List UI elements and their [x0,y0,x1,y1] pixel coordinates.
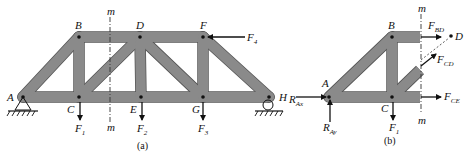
joint-label-h: H [278,91,288,103]
joint-label-f: F [199,19,207,31]
joint-label-d: D [135,19,144,31]
joint-label-e: E [129,103,137,115]
load-label-f3: F3 [197,122,209,137]
truss-figure: m m A B C D E F G H F1 F2 F3 F4 (a) [0,0,464,158]
joint-label-g: G [192,103,200,115]
load-label-f2: F2 [136,122,148,137]
force-label-fce: FCE [443,90,460,105]
force-label-fcd: FCD [436,53,453,68]
point-d-marker [449,34,453,38]
joint-label-c: C [67,103,75,115]
joint-label-d-b: D [454,30,463,42]
reaction-label-rax: RAx [288,93,304,108]
cut-label-bottom-b: m [418,114,426,126]
line-of-action-cd [421,38,449,60]
load-label-f4: F4 [246,31,258,46]
cut-label-bottom: m [107,121,115,133]
joint-label-b-b: B [388,19,395,31]
force-arrow-fcd [421,54,436,66]
caption-b: (b) [384,135,396,147]
caption-a: (a) [137,140,148,152]
truss-a-members [23,37,269,97]
joint-label-a: A [6,91,14,103]
force-label-fbd: FBD [427,19,444,34]
free-body-b: m m A B C D RAx RAy F1 FBD FCD FCE (b) [288,2,463,147]
truss-b-members [329,37,420,97]
joint-label-b: B [75,19,82,31]
cut-label-top-b: m [418,2,426,14]
truss-a: m m A B C D E F G H F1 F2 F3 F4 (a) [6,5,288,152]
reaction-label-ray: RAy [322,121,338,136]
joint-label-c-b: C [381,102,389,114]
cut-label-top: m [107,5,115,17]
load-label-f1: F1 [74,122,85,137]
joint-label-a-b: A [321,77,329,89]
load-label-f1-b: F1 [388,121,399,136]
